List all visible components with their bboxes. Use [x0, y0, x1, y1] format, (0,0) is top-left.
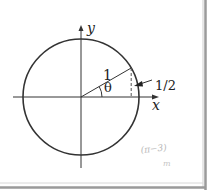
diagram-frame: y x 1 θ 1/2 (π−3) m	[0, 0, 209, 193]
x-axis-label: x	[152, 97, 160, 113]
angle-label: θ	[104, 80, 112, 95]
pointer-arrowhead-icon	[134, 81, 143, 87]
opposite-side-label: 1/2	[155, 78, 176, 93]
handwritten-note-2: m	[163, 159, 171, 168]
angle-arc	[99, 87, 102, 98]
handwritten-note: (π−3)	[140, 142, 168, 155]
y-axis-label: y	[86, 20, 96, 36]
y-axis-arrow-icon	[79, 25, 84, 31]
x-axis	[13, 95, 159, 100]
page-border	[0, 0, 206, 190]
